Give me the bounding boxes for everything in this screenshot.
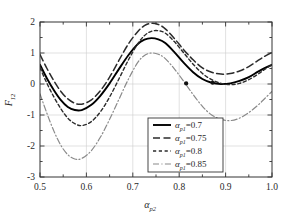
y-tick-label: -1 [27, 110, 35, 120]
x-tick-label: 0.8 [173, 182, 185, 192]
y-tick-label: 2 [30, 17, 35, 27]
x-tick-label: 0.5 [34, 182, 46, 192]
legend-label-0: αp1=0.7 [175, 120, 203, 131]
x-tick-label: 1.0 [266, 182, 278, 192]
x-tick-label: 0.6 [80, 182, 92, 192]
data-point-marker-1 [211, 81, 215, 85]
y-tick-label: -2 [27, 141, 35, 151]
x-tick-label: 0.7 [127, 182, 139, 192]
chart-figure: 0.50.60.70.80.91.0-3-2-1012 αp2 F12 αp1=… [0, 0, 285, 216]
x-tick-label: 0.9 [220, 182, 232, 192]
y-tick-label: 0 [30, 79, 35, 89]
legend-label-2: αp1=0.8 [175, 146, 203, 157]
data-point-marker-0 [184, 81, 188, 85]
legend: αp1=0.7αp1=0.75αp1=0.8αp1=0.85 [148, 118, 223, 172]
y-tick-label: -3 [27, 172, 35, 182]
y-tick-label: 1 [30, 48, 35, 58]
